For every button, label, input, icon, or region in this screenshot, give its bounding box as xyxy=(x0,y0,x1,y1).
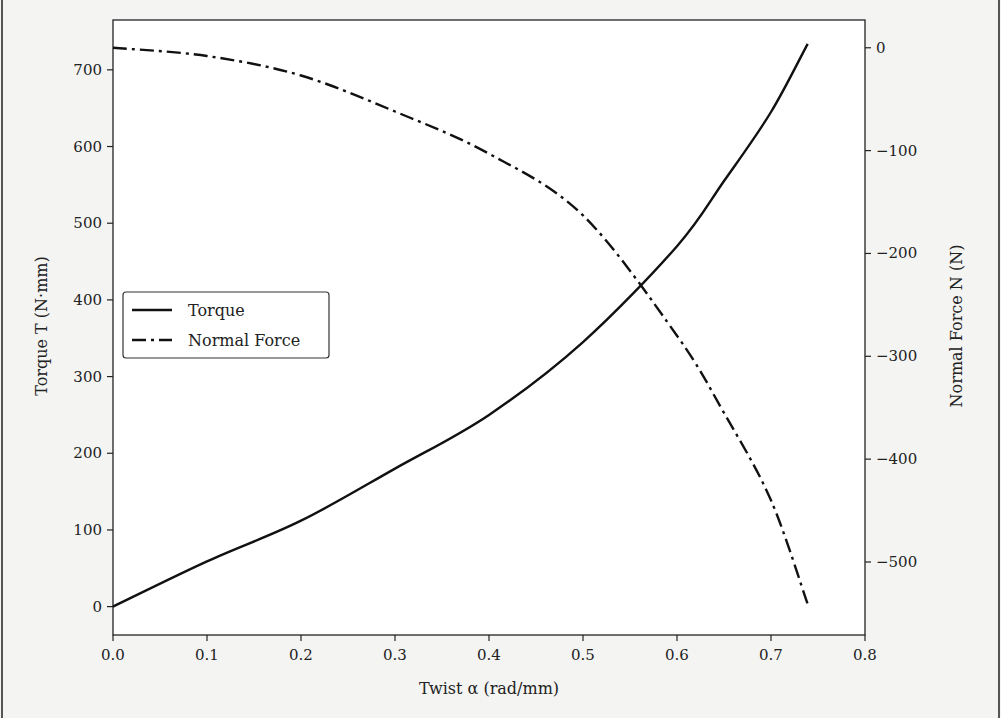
y-tick-label-right: 0 xyxy=(876,39,886,57)
x-tick-label: 0.0 xyxy=(101,646,125,664)
x-tick-label: 0.8 xyxy=(853,646,877,664)
y-tick-label-right: −100 xyxy=(876,142,917,160)
dual-axis-line-chart: 0.00.10.20.30.40.50.60.70.8 010020030040… xyxy=(0,0,1001,718)
legend-label-normal-force: Normal Force xyxy=(188,331,300,350)
y-axis-normal-force: 0−100−200−300−400−500 xyxy=(865,39,917,571)
y-tick-label-right: −300 xyxy=(876,347,917,365)
y-tick-label-left: 600 xyxy=(73,138,102,156)
x-tick-label: 0.1 xyxy=(195,646,219,664)
x-axis-label: Twist α (rad/mm) xyxy=(419,679,559,698)
y-tick-label-left: 700 xyxy=(73,61,102,79)
y-tick-label-left: 100 xyxy=(73,521,102,539)
y-tick-label-right: −400 xyxy=(876,450,917,468)
x-tick-label: 0.6 xyxy=(665,646,689,664)
x-tick-label: 0.3 xyxy=(383,646,407,664)
y-tick-label-left: 400 xyxy=(73,291,102,309)
y-axis-torque: 0100200300400500600700 xyxy=(73,61,113,616)
x-tick-label: 0.4 xyxy=(477,646,501,664)
y-tick-label-left: 200 xyxy=(73,444,102,462)
y-axis-label-left: Torque T (N·mm) xyxy=(32,256,51,395)
x-tick-label: 0.7 xyxy=(759,646,783,664)
y-tick-label-left: 0 xyxy=(92,598,102,616)
y-tick-label-right: −500 xyxy=(876,553,917,571)
y-axis-label-right: Normal Force N (N) xyxy=(947,245,966,408)
y-tick-label-right: −200 xyxy=(876,244,917,262)
y-tick-label-left: 500 xyxy=(73,214,102,232)
x-axis: 0.00.10.20.30.40.50.60.70.8 xyxy=(101,635,877,664)
x-tick-label: 0.5 xyxy=(571,646,595,664)
legend: Torque Normal Force xyxy=(123,292,329,358)
x-tick-label: 0.2 xyxy=(289,646,313,664)
legend-label-torque: Torque xyxy=(188,301,245,320)
y-tick-label-left: 300 xyxy=(73,368,102,386)
